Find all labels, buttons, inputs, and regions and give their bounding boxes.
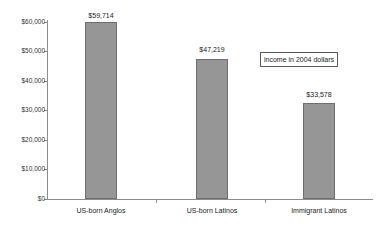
x-category-label-us-born-anglos: US-born Anglos bbox=[61, 206, 141, 215]
bar-value-label-us-born-latinos: $47,219 bbox=[182, 45, 242, 54]
x-axis-line bbox=[47, 199, 373, 200]
x-category-label-us-born-latinos: US-born Latinos bbox=[172, 206, 252, 215]
y-tick-label-0: $0 bbox=[0, 195, 45, 202]
bar-chart: $0 $10,000 $20,000 $30,000 $40,000 $50,0… bbox=[0, 0, 379, 229]
x-category-label-immigrant-latinos: Immigrant Latinos bbox=[279, 206, 359, 215]
y-tick-label-1: $10,000 bbox=[0, 165, 45, 172]
bar-us-born-latinos bbox=[196, 59, 228, 199]
y-tick-label-6: $60,000 bbox=[0, 18, 45, 25]
y-tick-label-3: $30,000 bbox=[0, 106, 45, 113]
annotation-income-note: income in 2004 dollars bbox=[260, 52, 338, 67]
y-tick-label-4: $40,000 bbox=[0, 77, 45, 84]
x-tick-mark-1 bbox=[156, 199, 157, 203]
bar-value-label-us-born-anglos: $59,714 bbox=[71, 11, 131, 20]
bar-immigrant-latinos bbox=[303, 103, 335, 199]
bar-value-label-immigrant-latinos: $33,578 bbox=[289, 90, 349, 99]
y-tick-label-2: $20,000 bbox=[0, 136, 45, 143]
x-tick-mark-2 bbox=[265, 199, 266, 203]
y-tick-label-5: $50,000 bbox=[0, 47, 45, 54]
bar-us-born-anglos bbox=[85, 22, 117, 199]
